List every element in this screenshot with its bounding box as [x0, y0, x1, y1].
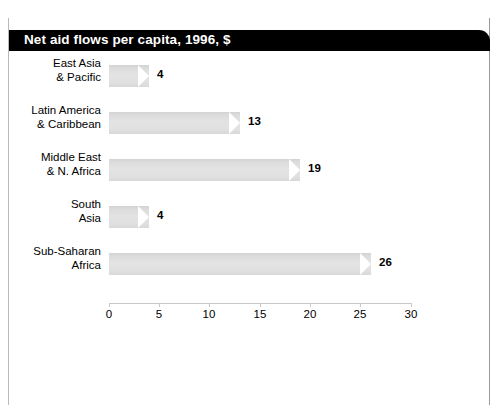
bar-row: Latin America & Caribbean 13 [9, 112, 490, 134]
bar-value-label: 13 [248, 115, 261, 127]
category-label: South Asia [9, 198, 101, 225]
category-label-line2: & Pacific [9, 71, 101, 85]
bar-container: 4 [109, 206, 149, 228]
bar-row: Middle East & N. Africa 19 [9, 159, 490, 181]
bar-row: Sub-Saharan Africa 26 [9, 253, 490, 275]
x-axis-tick-label: 20 [295, 308, 325, 320]
bar-container: 4 [109, 65, 149, 87]
category-label-line1: Latin America [31, 104, 101, 116]
x-axis-tick [360, 303, 361, 307]
x-axis-tick [159, 303, 160, 307]
bar [109, 159, 300, 181]
x-axis-tick [209, 303, 210, 307]
category-label: Sub-Saharan Africa [9, 245, 101, 272]
bar-container: 19 [109, 159, 300, 181]
bar [109, 112, 240, 134]
category-label-line1: East Asia [53, 57, 101, 69]
x-axis-tick [260, 303, 261, 307]
category-label-line1: Sub-Saharan [33, 245, 101, 257]
x-axis-tick-label: 15 [245, 308, 275, 320]
bar-row: South Asia 4 [9, 206, 490, 228]
x-axis-tick [411, 303, 412, 307]
bar-value-label: 19 [308, 162, 321, 174]
chart-plot-area: East Asia & Pacific 4 Latin America & Ca… [9, 51, 490, 405]
x-axis-tick-label: 30 [396, 308, 426, 320]
chart-card: Net aid flows per capita, 1996, $ East A… [8, 18, 490, 405]
x-axis-tick-label: 25 [345, 308, 375, 320]
x-axis-tick [109, 303, 110, 307]
x-axis-tick-label: 5 [144, 308, 174, 320]
bar-value-label: 4 [157, 68, 163, 80]
bar-value-label: 26 [379, 256, 392, 268]
x-axis-tick [310, 303, 311, 307]
category-label-line1: South [71, 198, 101, 210]
chart-title-banner: Net aid flows per capita, 1996, $ [9, 30, 490, 51]
bar-container: 13 [109, 112, 240, 134]
bar-row: East Asia & Pacific 4 [9, 65, 490, 87]
category-label: Latin America & Caribbean [9, 104, 101, 131]
category-label-line2: & N. Africa [9, 165, 101, 179]
category-label-line2: & Caribbean [9, 118, 101, 132]
x-axis-tick-label: 10 [194, 308, 224, 320]
bar [109, 253, 371, 275]
bar-container: 26 [109, 253, 371, 275]
category-label: East Asia & Pacific [9, 57, 101, 84]
x-axis-tick-label: 0 [94, 308, 124, 320]
page-title: Net aid flows per capita, 1996, $ [24, 32, 231, 47]
category-label-line1: Middle East [41, 151, 101, 163]
category-label: Middle East & N. Africa [9, 151, 101, 178]
category-label-line2: Asia [9, 212, 101, 226]
bar-value-label: 4 [157, 209, 163, 221]
category-label-line2: Africa [9, 259, 101, 273]
